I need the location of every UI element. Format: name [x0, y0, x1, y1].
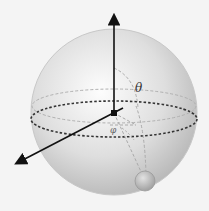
- phi-label: φ: [110, 125, 117, 135]
- origin-point: [111, 110, 117, 116]
- theta-label: θ: [135, 81, 143, 95]
- sphere-diagram: θ φ: [0, 0, 209, 211]
- point-ball: [135, 171, 155, 191]
